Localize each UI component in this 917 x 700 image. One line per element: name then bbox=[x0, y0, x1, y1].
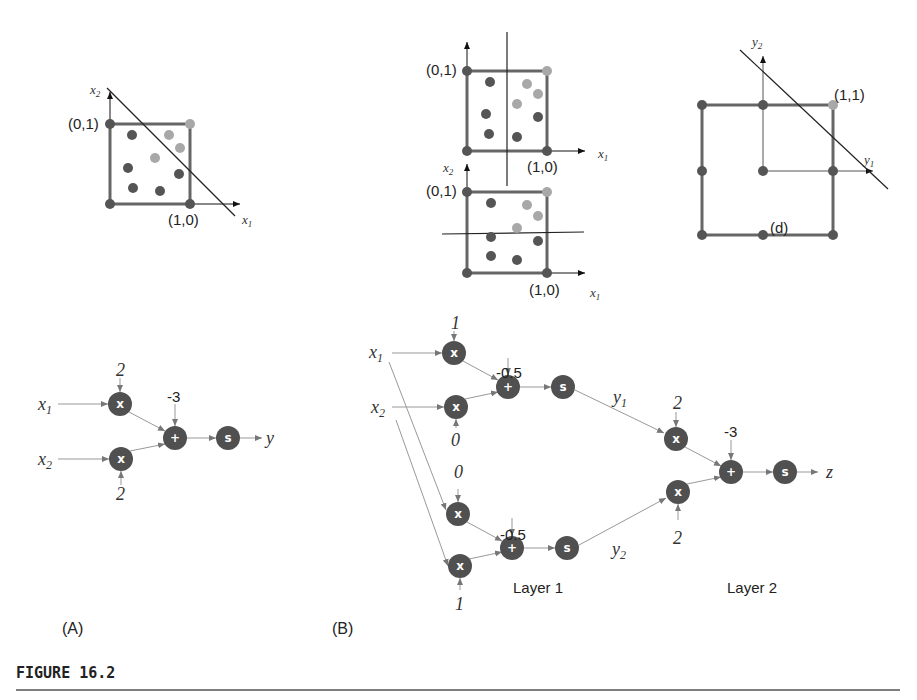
svg-text:x: x bbox=[672, 432, 680, 446]
svg-text:s: s bbox=[559, 380, 566, 394]
svg-text:+: + bbox=[726, 465, 736, 479]
panel-label-b: (B) bbox=[332, 620, 353, 637]
svg-text:s: s bbox=[781, 465, 788, 479]
svg-text:+: + bbox=[503, 380, 513, 394]
data-points bbox=[105, 119, 195, 209]
output-y2-label: y2 bbox=[610, 539, 626, 562]
axis-label-x2: x2 bbox=[89, 82, 101, 99]
svg-text:+: + bbox=[507, 541, 517, 555]
label-0-1: (0,1) bbox=[426, 182, 457, 199]
layer2-label: Layer 2 bbox=[727, 579, 777, 596]
svg-text:s: s bbox=[224, 431, 231, 445]
network-b-edges bbox=[389, 331, 818, 590]
svg-text:x: x bbox=[452, 400, 460, 414]
figure-canvas: x2 (0,1) (1,0) x1 (0,1) (1,0) x1 bbox=[0, 0, 917, 700]
weight-label: 1 bbox=[451, 313, 460, 333]
label-1-1: (1,1) bbox=[834, 86, 865, 103]
input-x2-label: x2 bbox=[37, 449, 52, 472]
bias-label: -0.5 bbox=[496, 364, 522, 381]
label-d: (d) bbox=[770, 219, 788, 236]
label-1-0: (1,0) bbox=[168, 211, 199, 228]
svg-text:x: x bbox=[454, 507, 462, 521]
axis-label-x1: x1 bbox=[241, 212, 252, 229]
output-y1-label: y1 bbox=[611, 387, 627, 410]
input-x1-label: x1 bbox=[368, 342, 383, 365]
data-points bbox=[697, 100, 838, 240]
svg-text:x: x bbox=[117, 452, 125, 466]
axis-label-x2: x2 bbox=[442, 160, 454, 177]
svg-text:+: + bbox=[170, 431, 180, 445]
weight-label: 2 bbox=[116, 360, 125, 380]
svg-text:x: x bbox=[674, 485, 682, 499]
panel-label-a: (A) bbox=[62, 620, 83, 637]
input-x2-label: x2 bbox=[370, 397, 385, 420]
weight-label: 0 bbox=[451, 430, 460, 450]
plot-b-bottom: x2 (0,1) (1,0) x1 bbox=[426, 160, 600, 302]
network-a-labels: x1 x2 2 2 -3 y bbox=[37, 360, 274, 504]
bias-label: -3 bbox=[167, 388, 180, 405]
weight-label: 2 bbox=[673, 393, 682, 413]
weight-label: 0 bbox=[454, 462, 463, 482]
axis-label-y2: y2 bbox=[750, 34, 763, 51]
plot-b-top: (0,1) (1,0) x1 bbox=[426, 32, 608, 186]
input-x1-label: x1 bbox=[37, 394, 52, 417]
output-z-label: z bbox=[825, 462, 833, 482]
decision-line bbox=[107, 88, 235, 216]
plot-d: y2 (1,1) y1 (d) bbox=[697, 34, 888, 240]
layer1-label: Layer 1 bbox=[513, 579, 563, 596]
svg-text:x: x bbox=[450, 346, 458, 360]
bias-label: -0.5 bbox=[500, 526, 526, 543]
svg-text:s: s bbox=[563, 541, 570, 555]
weight-label: 2 bbox=[673, 528, 682, 548]
plot-a: x2 (0,1) (1,0) x1 bbox=[68, 82, 252, 229]
output-y-label: y bbox=[264, 428, 274, 448]
weight-label: 2 bbox=[116, 484, 125, 504]
svg-text:x: x bbox=[456, 559, 464, 573]
decision-line bbox=[442, 232, 584, 234]
axis-label-x1: x1 bbox=[589, 285, 600, 302]
svg-text:x: x bbox=[116, 397, 124, 411]
axis-label-y1: y1 bbox=[862, 152, 874, 169]
label-1-0: (1,0) bbox=[527, 158, 558, 175]
label-1-0: (1,0) bbox=[529, 281, 560, 298]
weight-label: 1 bbox=[455, 594, 464, 614]
label-0-1: (0,1) bbox=[426, 61, 457, 78]
network-b-labels: x1 x2 1 0 -0.5 y1 0 1 -0.5 y2 2 2 -3 z L… bbox=[368, 313, 833, 614]
bias-label: -3 bbox=[724, 423, 737, 440]
label-0-1: (0,1) bbox=[68, 115, 99, 132]
axis-label-x1: x1 bbox=[597, 146, 608, 163]
figure-caption: FIGURE 16.2 bbox=[16, 664, 115, 682]
